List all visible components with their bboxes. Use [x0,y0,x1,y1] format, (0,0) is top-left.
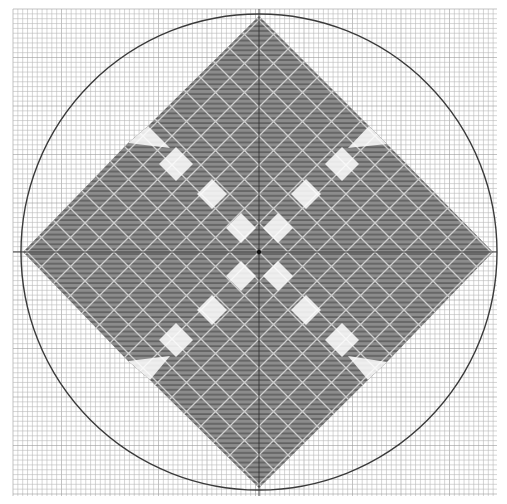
center-mark [257,250,261,254]
cross-stitch-diagram [0,0,507,504]
